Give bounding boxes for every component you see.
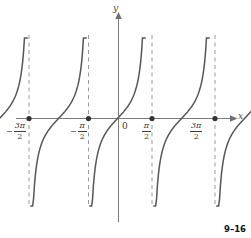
fraction-numerator: 3π [190, 122, 202, 130]
fraction-3pi-2: 3π 2 [190, 122, 202, 141]
fraction-denominator: 2 [193, 133, 200, 141]
fraction-numerator: π [79, 122, 86, 130]
tick-label-pi-over-2: π 2 [142, 122, 151, 141]
axis-point-neg-3pi-2 [26, 116, 31, 121]
minus-sign-neg-pi-2: − [70, 128, 78, 136]
y-axis-label: y [113, 3, 118, 13]
minus-sign-neg-3pi-2: − [6, 128, 14, 136]
origin-label: 0 [122, 122, 128, 131]
fraction-denominator: 2 [16, 133, 23, 141]
fraction-denominator: 2 [143, 133, 150, 141]
fraction-numerator: 3π [14, 122, 26, 130]
tangent-branch-5 [217, 38, 251, 206]
axis-point-pi-2 [149, 116, 154, 121]
y-axis-arrow-icon [115, 12, 122, 19]
figure-number-label: 9–16 [224, 224, 246, 234]
tick-label-3pi-over-2: 3π 2 [190, 122, 202, 141]
x-axis-label: x [238, 111, 243, 121]
tangent-graph-svg [0, 0, 251, 238]
fraction-numerator: π [143, 122, 150, 130]
tick-label-neg-3pi-over-2: − 3π 2 [6, 122, 26, 141]
fraction-neg-pi-2: π 2 [78, 122, 87, 141]
fraction-denominator: 2 [79, 133, 86, 141]
tick-label-neg-pi-over-2: − π 2 [70, 122, 87, 141]
figure-container: y x − 3π 2 − π 2 0 π 2 3π 2 9–16 [0, 0, 251, 238]
fraction-pi-2: π 2 [142, 122, 151, 141]
axis-point-neg-pi-2 [86, 116, 91, 121]
x-axis-arrow-icon [230, 115, 238, 122]
fraction-neg-3pi-2: 3π 2 [14, 122, 26, 141]
tangent-branch-3 [90, 38, 145, 206]
axis-point-3pi-2 [212, 116, 217, 121]
